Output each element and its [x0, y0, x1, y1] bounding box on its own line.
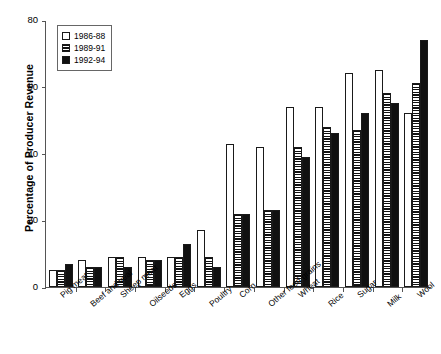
- bar: [331, 133, 339, 287]
- bar: [57, 270, 65, 287]
- bar-group: [283, 21, 313, 287]
- x-axis-label: Milk: [385, 291, 403, 308]
- bar-group: [312, 21, 342, 287]
- bar: [294, 147, 302, 287]
- bar: [391, 103, 399, 287]
- bar: [234, 214, 242, 287]
- legend-item: 1989-91: [62, 42, 105, 54]
- legend-label: 1989-91: [74, 43, 105, 53]
- x-axis-labels: Pig meatBeef and vealSheep meatOilseedsE…: [45, 292, 431, 354]
- bar: [420, 40, 428, 287]
- bar: [197, 230, 205, 287]
- bar: [94, 267, 102, 287]
- y-tick-label: 60: [12, 81, 38, 92]
- bar: [272, 210, 280, 287]
- legend-item: 1992-94: [62, 54, 105, 66]
- y-tick-label: 40: [12, 148, 38, 159]
- bar: [361, 113, 369, 287]
- legend-swatch-icon: [62, 44, 70, 52]
- bar: [345, 73, 353, 287]
- bar-group: [224, 21, 254, 287]
- legend-item: 1986-88: [62, 30, 105, 42]
- bar: [353, 130, 361, 287]
- bar: [242, 214, 250, 287]
- bar: [205, 257, 213, 287]
- bar: [256, 147, 264, 287]
- bar: [375, 70, 383, 287]
- y-tick-label: 0: [12, 281, 38, 292]
- bar: [383, 93, 391, 287]
- bar-group: [164, 21, 194, 287]
- legend-swatch-icon: [62, 32, 70, 40]
- bar: [286, 107, 294, 287]
- y-tick-label: 20: [12, 214, 38, 225]
- x-axis-label: Rice: [326, 290, 345, 309]
- legend-swatch-icon: [62, 56, 70, 64]
- bar-chart: Percentage of Producer Revenue 020406080…: [0, 0, 441, 354]
- bar: [226, 144, 234, 288]
- bar: [412, 83, 420, 287]
- legend-label: 1992-94: [74, 55, 105, 65]
- bar: [175, 257, 183, 287]
- bar-group: [372, 21, 402, 287]
- bar-group: [135, 21, 165, 287]
- bar-group: [401, 21, 431, 287]
- chart-legend: 1986-881989-911992-94: [57, 25, 112, 71]
- bar: [264, 210, 272, 287]
- legend-label: 1986-88: [74, 31, 105, 41]
- bar: [49, 270, 57, 287]
- bar-group: [253, 21, 283, 287]
- y-tick-mark: [42, 288, 46, 289]
- bar: [323, 127, 331, 287]
- bar: [404, 113, 412, 287]
- y-tick-label: 80: [12, 14, 38, 25]
- bar: [213, 267, 221, 287]
- bar-group: [194, 21, 224, 287]
- bar-group: [342, 21, 372, 287]
